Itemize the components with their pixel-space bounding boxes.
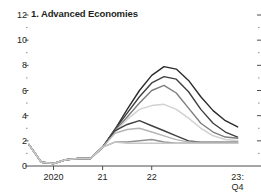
chart-plot-area	[0, 0, 261, 192]
x-tick-label: 22	[147, 172, 157, 182]
x-tick-label-line: 23:	[231, 172, 244, 182]
chart-line-series-8-flat-light	[29, 142, 238, 163]
chart-series-group	[29, 67, 238, 164]
x-tick-label: 21	[98, 172, 108, 182]
chart-panel: 1. Advanced Economies 024681012 20202122…	[0, 0, 261, 192]
x-tick-label-line: Q4	[231, 182, 244, 192]
chart-line-series-4-light-gray	[29, 104, 238, 163]
chart-line-series-3-medium-gray	[29, 85, 238, 163]
x-tick-label: 2020	[44, 172, 64, 182]
x-tick-label: 23:Q4	[231, 172, 244, 192]
chart-line-series-2-dark	[29, 77, 238, 164]
chart-line-series-6-mid-light	[29, 128, 238, 163]
